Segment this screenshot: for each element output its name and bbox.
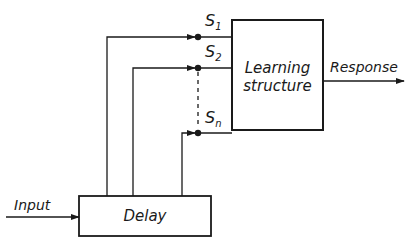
delay-label: Delay [79, 209, 211, 224]
input-label: Input [14, 198, 50, 212]
s1-node [195, 34, 201, 40]
sn-label: Sn [205, 110, 222, 129]
s2-label: S2 [205, 44, 222, 63]
response-label: Response [330, 60, 398, 74]
learning-structure-label-line2: structure [232, 79, 323, 94]
s2-node [195, 65, 201, 71]
sn-line [182, 133, 195, 196]
s1-label: S1 [205, 13, 222, 32]
learning-structure-label-line1: Learning [232, 61, 323, 76]
s2-line [133, 68, 195, 196]
sn-node [195, 130, 201, 136]
